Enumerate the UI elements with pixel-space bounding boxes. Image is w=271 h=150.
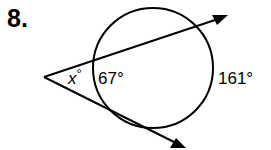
geometry-figure: x° 67° 161° bbox=[0, 0, 271, 150]
near-arc-label: 67° bbox=[98, 69, 124, 88]
far-arc-label: 161° bbox=[218, 69, 253, 88]
diagram-stage: 8. x° 67° 161° bbox=[0, 0, 271, 150]
angle-x-label: x° bbox=[67, 66, 82, 88]
tangent-arrowhead-icon bbox=[170, 138, 186, 148]
